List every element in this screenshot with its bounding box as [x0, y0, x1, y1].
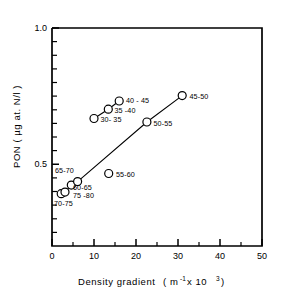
x-tick-label: 40 — [215, 251, 225, 261]
y-axis-title-text: PON ( µg at. N/l ) — [11, 85, 22, 168]
data-point-label: 70-75 — [54, 199, 73, 208]
x-axis-unit-exp2: 3 — [216, 275, 220, 282]
series-outlier: 55-60 — [105, 170, 135, 179]
x-tick-label: 10 — [89, 251, 99, 261]
x-axis-unit-mid: x 10 — [187, 276, 207, 287]
x-tick-label: 20 — [131, 251, 141, 261]
x-tick-label: 30 — [173, 251, 183, 261]
scatter-plot: 0 10 20 30 40 50 — [0, 0, 293, 297]
y-tick-label: 0.5 — [34, 159, 47, 169]
y-tick-label: 1.0 — [34, 23, 47, 33]
data-point-label: 35 -40 — [115, 106, 136, 115]
data-point-label: 50-55 — [154, 119, 173, 128]
x-tick-label: 0 — [49, 251, 54, 261]
data-point-label: 45-50 — [190, 92, 209, 101]
data-point-marker — [143, 118, 151, 126]
chart-figure: 0 10 20 30 40 50 — [0, 0, 293, 297]
data-point-marker — [104, 105, 112, 113]
data-point-marker — [105, 170, 113, 178]
x-axis-unit-open: ( m — [163, 276, 178, 287]
data-point-marker — [61, 188, 69, 196]
x-tick-label: 50 — [257, 251, 267, 261]
x-axis-unit-close: ) — [221, 276, 225, 287]
data-point-label: 40 - 45 — [126, 96, 149, 105]
data-point-label: 65-70 — [55, 166, 74, 175]
y-axis-title: PON ( µg at. N/l ) — [11, 85, 22, 168]
data-point-label: 30- 35 — [101, 115, 122, 124]
y-tick-labels: 1.0 0.5 — [34, 23, 47, 169]
plot-frame — [52, 28, 262, 246]
x-axis-title: Density gradient ( m -1 x 10 3 ) — [78, 275, 225, 287]
x-axis-title-text: Density gradient — [78, 276, 155, 287]
x-axis-unit-exp1: -1 — [180, 275, 186, 282]
data-point-marker — [178, 92, 186, 100]
data-point-label: 75 -80 — [73, 191, 94, 200]
series-upper-segment: 30- 35 35 -40 40 - 45 — [90, 96, 149, 124]
data-point-marker — [115, 97, 123, 105]
data-point-marker — [90, 115, 98, 123]
x-tick-labels: 0 10 20 30 40 50 — [49, 251, 267, 261]
data-point-label: 55-60 — [116, 170, 135, 179]
data-point-label: 60-65 — [73, 183, 92, 192]
